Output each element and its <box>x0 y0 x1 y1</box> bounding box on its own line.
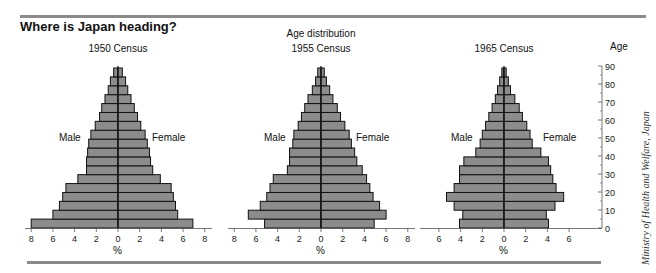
male-bar <box>265 219 321 228</box>
age-tick-label: 90 <box>605 62 615 72</box>
x-tick-label: 4 <box>72 234 77 244</box>
male-bar <box>100 112 118 121</box>
female-bar <box>118 184 171 193</box>
male-bar <box>78 175 118 184</box>
x-tick-label: 2 <box>137 234 142 244</box>
female-bar <box>321 157 357 166</box>
male-bar <box>273 175 321 184</box>
female-bar <box>504 201 555 210</box>
male-bar <box>293 139 321 148</box>
male-bar <box>492 104 504 113</box>
female-bar <box>118 112 138 121</box>
male-bar <box>482 130 504 139</box>
female-bar <box>118 157 151 166</box>
female-bar <box>321 192 373 201</box>
male-bar <box>290 157 321 166</box>
female-bar <box>504 192 564 201</box>
male-bar <box>480 139 504 148</box>
female-bar <box>118 104 134 113</box>
x-tick-label: 2 <box>297 234 302 244</box>
female-bar <box>321 210 386 219</box>
male-bar <box>305 104 321 113</box>
male-bar <box>66 184 118 193</box>
female-bar <box>321 175 367 184</box>
female-bar <box>504 95 515 104</box>
x-tick-label: 0 <box>501 234 506 244</box>
female-bar <box>321 201 380 210</box>
female-bar <box>321 86 330 95</box>
male-bar <box>312 86 321 95</box>
male-bar <box>53 210 118 219</box>
female-bar <box>504 175 553 184</box>
female-bar <box>118 121 141 130</box>
male-bar <box>460 219 504 228</box>
x-tick-label: 6 <box>181 234 186 244</box>
x-tick-label: 8 <box>29 234 34 244</box>
x-tick-label: 6 <box>567 234 572 244</box>
female-bar <box>321 130 349 139</box>
male-bar <box>454 201 504 210</box>
age-tick-label: 50 <box>605 134 615 144</box>
x-tick-label: 8 <box>202 234 207 244</box>
male-label-1965: Male <box>451 132 473 143</box>
male-bar <box>446 192 504 201</box>
male-bar <box>500 77 504 86</box>
male-bar <box>316 77 321 86</box>
female-bar <box>118 166 153 175</box>
age-axis: 0102030405060708090 <box>598 62 615 234</box>
male-bar <box>301 112 321 121</box>
male-bar <box>460 175 504 184</box>
female-bar <box>118 95 131 104</box>
age-tick-label: 80 <box>605 80 615 90</box>
male-bar <box>267 192 321 201</box>
female-bar <box>321 184 370 193</box>
male-bar <box>102 104 118 113</box>
female-bar <box>118 130 145 139</box>
male-label-1955: Male <box>264 132 286 143</box>
x-tick-label: 4 <box>275 234 280 244</box>
female-bar <box>504 210 546 219</box>
male-bar <box>63 192 118 201</box>
female-bar <box>504 121 527 130</box>
male-bar <box>464 157 504 166</box>
pyramid-1965-census: 6420246 <box>420 66 602 244</box>
male-bar <box>87 166 118 175</box>
male-bar <box>114 68 118 77</box>
male-bar <box>105 95 118 104</box>
male-bar <box>294 130 321 139</box>
age-tick-label: 10 <box>605 206 615 216</box>
female-bar <box>504 184 556 193</box>
male-bar <box>495 95 504 104</box>
age-tick-label: 0 <box>605 224 610 234</box>
x-tick-label: 2 <box>94 234 99 244</box>
male-bar <box>270 184 321 193</box>
male-bar <box>454 184 504 193</box>
male-label-1950: Male <box>59 132 81 143</box>
female-bar <box>504 166 551 175</box>
female-bar <box>321 219 374 228</box>
female-bar <box>118 175 160 184</box>
male-bar <box>486 121 504 130</box>
female-bar <box>118 139 147 148</box>
female-bar <box>504 157 548 166</box>
male-bar <box>87 157 118 166</box>
female-label-1955: Female <box>356 132 389 143</box>
female-bar <box>321 95 333 104</box>
male-bar <box>110 77 118 86</box>
male-bar <box>308 95 321 104</box>
male-bar <box>91 130 118 139</box>
female-bar <box>504 86 511 95</box>
x-tick-label: 6 <box>253 234 258 244</box>
male-bar <box>489 112 504 121</box>
male-bar <box>31 219 118 228</box>
male-bar <box>248 210 321 219</box>
female-bar <box>321 121 345 130</box>
female-bar <box>321 166 362 175</box>
x-tick-label: 4 <box>458 234 463 244</box>
x-tick-label: 0 <box>115 234 120 244</box>
female-bar <box>504 219 548 228</box>
male-bar <box>476 148 504 157</box>
female-bar <box>118 86 128 95</box>
female-bar <box>118 219 193 228</box>
male-bar <box>260 201 321 210</box>
